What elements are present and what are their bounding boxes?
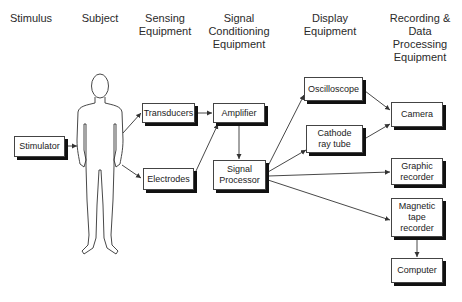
amplifier-block: Amplifier: [213, 103, 265, 123]
computer-label: Computer: [397, 265, 437, 276]
diagram-connections: [0, 0, 462, 302]
oscilloscope-label: Oscilloscope: [308, 84, 359, 95]
graphic-recorder-block: Graphic recorder: [391, 158, 443, 185]
human-figure-icon: [77, 74, 123, 254]
magnetic-tape-recorder-label: Magnetic tape recorder: [399, 201, 436, 234]
magnetic-tape-recorder-block: Magnetic tape recorder: [391, 198, 443, 237]
camera-label: Camera: [401, 109, 433, 120]
stimulator-label: Stimulator: [19, 141, 60, 152]
stimulator-block: Stimulator: [14, 136, 65, 157]
signal-processor-label: Signal Processor: [219, 164, 260, 186]
cathode-ray-tube-label: Cathode ray tube: [317, 128, 351, 150]
cathode-ray-tube-block: Cathode ray tube: [306, 125, 363, 153]
oscilloscope-block: Oscilloscope: [304, 77, 363, 101]
camera-block: Camera: [391, 102, 443, 127]
amplifier-label: Amplifier: [221, 108, 256, 119]
electrodes-label: Electrodes: [147, 174, 190, 185]
signal-processor-block: Signal Processor: [213, 160, 266, 190]
computer-block: Computer: [391, 258, 443, 283]
electrodes-block: Electrodes: [143, 168, 194, 190]
transducers-label: Transducers: [144, 108, 194, 119]
graphic-recorder-label: Graphic recorder: [400, 161, 434, 183]
transducers-block: Transducers: [142, 103, 195, 123]
